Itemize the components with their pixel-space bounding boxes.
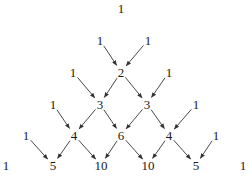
- arrow-r2c0-to-r3c1: [78, 77, 95, 98]
- arrow-r4c2-to-r5c3: [126, 140, 143, 159]
- arrow-r4c1-to-r5c1: [58, 141, 70, 159]
- node-r5c3: 10: [142, 158, 155, 173]
- node-r4c0: 1: [23, 128, 30, 143]
- arrow-r4c3-to-r5c3: [153, 141, 165, 159]
- node-r2c0: 1: [70, 65, 77, 80]
- node-r3c2: 3: [144, 97, 151, 112]
- arrow-r4c0-to-r5c1: [31, 140, 48, 159]
- arrow-r3c3-to-r4c3: [174, 109, 191, 129]
- node-r0c0: 1: [118, 1, 125, 16]
- arrow-r2c1-to-r3c2: [125, 77, 142, 97]
- arrow-r3c1-to-r4c2: [104, 110, 117, 129]
- arrow-r3c2-to-r4c3: [151, 110, 164, 129]
- node-r5c4: 5: [193, 158, 200, 173]
- arrow-r4c3-to-r5c4: [174, 140, 191, 159]
- arrow-r2c1-to-r3c1: [104, 78, 117, 97]
- node-layer: 11112113311464115101051: [3, 1, 247, 173]
- node-r4c1: 4: [71, 128, 78, 143]
- arrow-r3c1-to-r4c1: [79, 109, 95, 128]
- node-r4c4: 1: [213, 128, 220, 143]
- arrow-r1c1-to-r2c1: [126, 45, 143, 66]
- pascal-triangle-diagram: 11112113311464115101051: [0, 0, 249, 182]
- arrow-r3c2-to-r4c2: [126, 109, 142, 128]
- node-r5c2: 10: [95, 158, 108, 173]
- arrow-r4c1-to-r5c2: [79, 140, 96, 159]
- node-r3c0: 1: [50, 97, 57, 112]
- node-r2c2: 1: [166, 65, 173, 80]
- node-r4c3: 4: [166, 128, 173, 143]
- node-r3c1: 3: [97, 97, 104, 112]
- arrow-r3c0-to-r4c1: [57, 110, 70, 129]
- node-r4c2: 6: [118, 128, 125, 143]
- arrow-r4c2-to-r5c2: [105, 141, 117, 159]
- node-r2c1: 2: [118, 65, 125, 80]
- arrow-r4c4-to-r5c4: [200, 141, 212, 159]
- node-r1c0: 1: [97, 33, 104, 48]
- node-r5c0: 1: [3, 158, 10, 173]
- node-r3c3: 1: [193, 97, 200, 112]
- node-r5c1: 5: [50, 158, 57, 173]
- node-r1c1: 1: [145, 33, 152, 48]
- arrow-r2c2-to-r3c2: [152, 78, 166, 98]
- arrow-r1c0-to-r2c1: [104, 46, 117, 65]
- node-r5c5: 1: [240, 158, 247, 173]
